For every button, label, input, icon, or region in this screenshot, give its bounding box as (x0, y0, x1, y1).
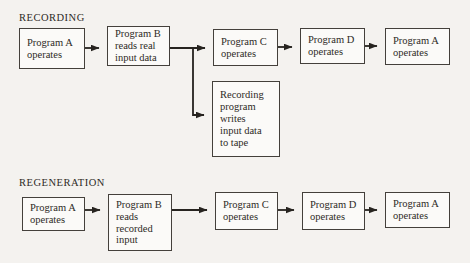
node-label: Program C operates (221, 36, 267, 60)
node-label: Program C operates (223, 199, 269, 223)
node-label: Program A operates (393, 198, 439, 222)
node-label: Program D operates (310, 199, 356, 223)
regeneration-box-program-a-start: Program A operates (22, 197, 85, 231)
node-label: Program A operates (27, 37, 73, 61)
regeneration-box-program-d: Program D operates (302, 192, 365, 230)
arrow-rec-branch-to-tape (193, 48, 204, 115)
recording-box-program-c: Program C operates (213, 29, 278, 66)
regeneration-box-program-a-end: Program A operates (385, 192, 450, 228)
node-label: Program A operates (30, 202, 76, 226)
recording-box-program-d: Program D operates (300, 28, 365, 64)
recording-box-program-a-end: Program A operates (385, 28, 450, 65)
flow-diagram: RECORDING Program A operates Program B r… (0, 0, 470, 263)
node-label: Program B reads recorded input (116, 199, 162, 247)
regeneration-section-title: REGENERATION (19, 177, 105, 188)
node-label: Recording program writes input data to t… (220, 89, 264, 149)
recording-box-program-b: Program B reads real input data (107, 26, 170, 66)
node-label: Program A operates (393, 35, 439, 59)
recording-box-tape-writer: Recording program writes input data to t… (212, 81, 280, 157)
node-label: Program D operates (308, 34, 354, 58)
recording-section-title: RECORDING (19, 12, 85, 23)
regeneration-box-program-b: Program B reads recorded input (108, 194, 172, 251)
recording-box-program-a-start: Program A operates (19, 28, 85, 69)
regeneration-box-program-c: Program C operates (215, 192, 278, 230)
node-label: Program B reads real input data (115, 28, 161, 64)
